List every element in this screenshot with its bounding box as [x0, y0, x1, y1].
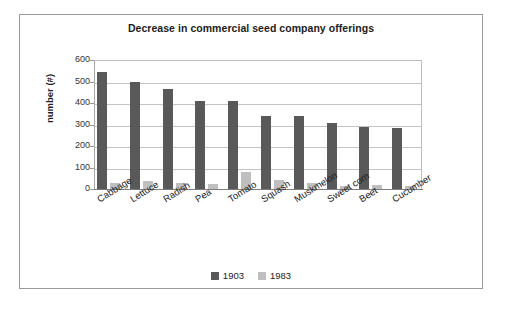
legend-item[interactable]: 1983: [258, 270, 291, 281]
y-axis-tick-label: 400: [60, 98, 90, 107]
legend-label: 1903: [223, 270, 244, 281]
bar-group: [259, 60, 292, 189]
legend-swatch-icon: [211, 272, 219, 280]
y-axis-tick-mark: [90, 189, 94, 190]
bar-group: [390, 60, 423, 189]
y-axis-tick-label: 300: [60, 120, 90, 129]
bar-group: [95, 60, 128, 189]
bar-group: [193, 60, 226, 189]
chart-container: Decrease in commercial seed company offe…: [19, 14, 483, 289]
y-axis-tick-label: 200: [60, 141, 90, 150]
bar-group: [226, 60, 259, 189]
plot-area: [94, 60, 422, 189]
bar-1903: [163, 89, 173, 189]
bar-1903: [195, 101, 205, 189]
bar-1903: [294, 116, 304, 189]
bar-1903: [130, 82, 140, 189]
y-axis-tick-mark: [90, 82, 94, 83]
legend-item[interactable]: 1903: [211, 270, 244, 281]
y-axis-title: number (#): [44, 54, 55, 144]
bar-1903: [228, 101, 238, 189]
bar-1903: [261, 116, 271, 189]
y-axis-tick-mark: [90, 168, 94, 169]
y-axis-tick-label: 0: [60, 184, 90, 193]
bar-1903: [97, 72, 107, 189]
chart-legend: 19031983: [20, 270, 482, 281]
y-axis-tick-label: 500: [60, 77, 90, 86]
legend-swatch-icon: [258, 272, 266, 280]
legend-label: 1983: [270, 270, 291, 281]
bar-group: [292, 60, 325, 189]
y-axis-tick-mark: [90, 103, 94, 104]
y-axis-tick-mark: [90, 60, 94, 61]
bar-group: [325, 60, 358, 189]
bar-group: [357, 60, 390, 189]
bar-1903: [392, 128, 402, 189]
bar-group: [128, 60, 161, 189]
y-axis-tick-mark: [90, 125, 94, 126]
y-axis-tick-label: 600: [60, 55, 90, 64]
bar-group: [161, 60, 194, 189]
y-axis-tick-mark: [90, 146, 94, 147]
y-axis-tick-labels: 6005004003002001000: [58, 15, 90, 290]
y-axis-tick-label: 100: [60, 163, 90, 172]
